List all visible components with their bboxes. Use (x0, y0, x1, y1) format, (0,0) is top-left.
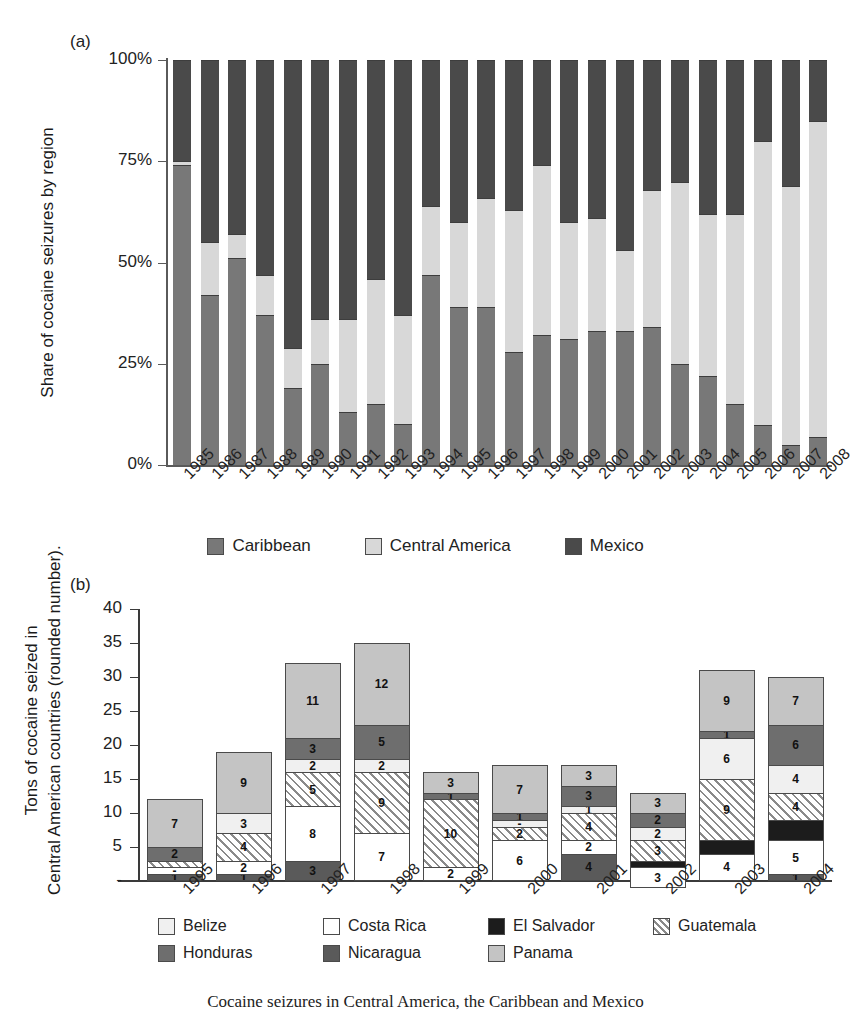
panel-a-segment-mexico (533, 60, 551, 165)
panel-a-segment-central-america (311, 319, 329, 364)
legend-swatch-costa-rica (323, 918, 340, 935)
panel-a-segment-mexico (339, 60, 357, 319)
panel-b-segment-panama: 7 (768, 677, 824, 725)
panel-b-legend-item: El Salvador (488, 917, 653, 935)
panel-b-bar: 32233 (630, 793, 686, 881)
panel-b-legend-item: Panama (488, 944, 653, 962)
panel-b-segment-guatemala: 5 (285, 772, 341, 806)
panel-a-segment-mexico (588, 60, 606, 218)
panel-b-segment-panama: 7 (147, 799, 203, 847)
panel-b-segment-belize: 6 (699, 738, 755, 779)
panel-b-letter: (b) (70, 575, 91, 595)
panel-a-bar (671, 60, 689, 465)
panel-a-segment-central-america (228, 234, 246, 258)
panel-b-legend-label: Costa Rica (348, 917, 426, 935)
panel-a-segment-mexico (201, 60, 219, 242)
panel-b-segment-panama: 7 (492, 765, 548, 813)
panel-a-segment-central-america (256, 275, 274, 316)
panel-b-y-tick (130, 677, 139, 678)
panel-a-segment-mexico (754, 60, 772, 141)
panel-a-segment-caribbean (228, 258, 246, 465)
panel-a-y-tick-label: 100% (60, 49, 152, 69)
panel-b-y-axis-label: Tons of cocaine seized in Central Americ… (20, 545, 66, 895)
panel-a-segment-mexico (505, 60, 523, 210)
panel-b-segment-honduras: 6 (768, 725, 824, 766)
panel-a-bar (699, 60, 717, 465)
panel-b-segment-honduras: 3 (285, 738, 341, 758)
panel-a-segment-central-america (782, 186, 800, 445)
panel-a-segment-mexico (477, 60, 495, 198)
panel-b-y-tick (130, 779, 139, 780)
panel-a-bar (394, 60, 412, 465)
panel-a-bar (367, 60, 385, 465)
panel-a-legend-label: Central America (390, 536, 511, 556)
panel-b-bar: 331424 (561, 765, 617, 881)
panel-a-segment-central-america (339, 319, 357, 412)
panel-a-segment-central-america (726, 214, 744, 404)
panel-a-segment-caribbean (201, 295, 219, 465)
panel-a-bar (422, 60, 440, 465)
panel-a-y-tick (158, 263, 167, 264)
panel-a-chart: (a) Share of cocaine seizures by region … (0, 0, 851, 575)
panel-a-segment-mexico (616, 60, 634, 250)
panel-b-segment-panama: 12 (354, 643, 410, 725)
legend-swatch-nicaragua (323, 945, 340, 962)
panel-a-y-axis (0, 0, 155, 480)
panel-b-segment-guatemala: 3 (630, 840, 686, 860)
panel-a-segment-mexico (367, 60, 385, 279)
panel-a-bar (533, 60, 551, 465)
panel-a-y-tick-label: 0% (60, 454, 152, 474)
panel-a-segment-mexico (394, 60, 412, 315)
panel-a-segment-central-america (533, 165, 551, 335)
panel-b-segment-guatemala: 4 (768, 793, 824, 820)
figure-caption: Cocaine seizures in Central America, the… (0, 992, 851, 1012)
panel-b-y-tick-label: 35 (80, 632, 122, 652)
panel-a-segment-central-america (671, 182, 689, 364)
panel-a-segment-central-america (560, 222, 578, 339)
panel-b-legend-item: Nicaragua (323, 944, 488, 962)
panel-a-bar (228, 60, 246, 465)
panel-b-segment-honduras: 3 (561, 786, 617, 806)
panel-a-bar (588, 60, 606, 465)
panel-a-segment-central-america (367, 279, 385, 405)
panel-a-segment-mexico (671, 60, 689, 182)
panel-b-segment-honduras: 1 (699, 731, 755, 738)
panel-b-legend: BelizeCosta RicaEl SalvadorGuatemalaHond… (118, 917, 818, 971)
panel-a-segment-central-america (201, 242, 219, 295)
panel-a-bar (173, 60, 191, 465)
panel-b-legend-label: Guatemala (678, 917, 756, 935)
panel-b-bar: 31102 (423, 772, 479, 881)
panel-b-y-axis-label-line1: Tons of cocaine seized in (20, 545, 43, 895)
panel-a-segment-caribbean (477, 307, 495, 465)
panel-b-segment-belize: - (492, 820, 548, 827)
panel-a-segment-mexico (699, 60, 717, 214)
panel-a-legend-label: Mexico (590, 536, 644, 556)
panel-b-legend-label: Honduras (183, 944, 252, 962)
panel-a-plot-area (168, 60, 832, 465)
panel-b-segment-guatemala: 9 (354, 772, 410, 833)
panel-a-y-tick (158, 60, 167, 61)
panel-a-segment-central-america (754, 141, 772, 425)
panel-a-bar (284, 60, 302, 465)
panel-a-bar (560, 60, 578, 465)
panel-a-segment-central-america (477, 198, 495, 307)
panel-a-segment-caribbean (450, 307, 468, 465)
panel-a-segment-central-america (394, 315, 412, 424)
panel-b-segment-honduras: 2 (630, 813, 686, 827)
panel-a-y-tick-label: 50% (60, 252, 152, 272)
panel-b-segment-el-salvador (630, 861, 686, 868)
panel-a-legend-item: Mexico (565, 536, 644, 556)
panel-a-segment-central-america (643, 190, 661, 328)
panel-a-segment-mexico (560, 60, 578, 222)
panel-a-bar (616, 60, 634, 465)
panel-b-segment-panama: 3 (561, 765, 617, 785)
panel-a-segment-central-america (450, 222, 468, 307)
panel-a-segment-mexico (311, 60, 329, 319)
panel-b-segment-belize: 3 (216, 813, 272, 833)
panel-b-legend-label: Nicaragua (348, 944, 421, 962)
panel-a-bar (809, 60, 827, 465)
panel-a-bar (643, 60, 661, 465)
legend-swatch-honduras (158, 945, 175, 962)
panel-a-segment-mexico (422, 60, 440, 206)
panel-b-y-tick-label: - (80, 870, 122, 890)
